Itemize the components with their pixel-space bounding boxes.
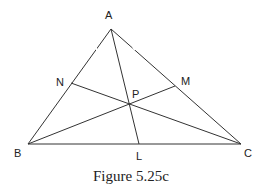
label-a: A [105,9,113,21]
cevian-cn [71,83,241,144]
label-p: P [132,88,139,100]
label-b: B [14,147,21,159]
label-n: N [56,76,64,88]
cevian-bm [28,86,175,144]
label-c: C [244,147,252,159]
label-l: L [136,150,142,162]
side-ab [28,29,111,144]
label-m: M [181,75,190,87]
figure-caption: Figure 5.25c [93,168,169,184]
side-ac [111,29,241,144]
cevian-al [111,29,139,144]
triangle-diagram: A N M P B L C Figure 5.25c [0,0,273,188]
tick-mark-ac [133,47,135,50]
tick-mark-ab [95,47,97,50]
